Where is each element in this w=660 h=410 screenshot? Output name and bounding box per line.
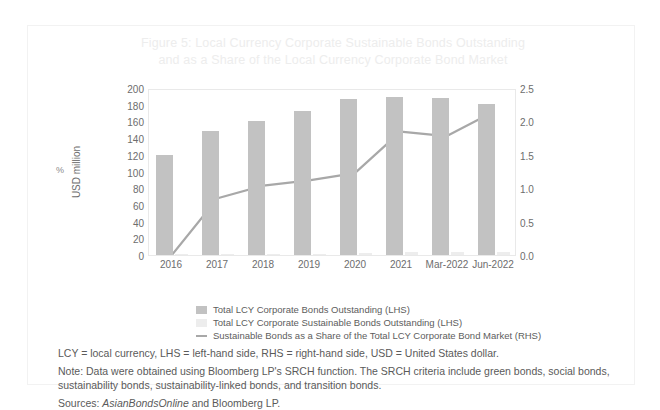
x-axis-tick-label: 2017 [206, 259, 228, 270]
bar-total-bonds [478, 104, 495, 255]
y-axis-right-unit: % [56, 165, 64, 175]
x-axis-tick-label: 2021 [390, 259, 412, 270]
y-axis-left-tick: 60 [133, 200, 144, 211]
bar-total-bonds [294, 111, 311, 255]
plot-region: USD million 200180160140120100806040200 … [28, 84, 636, 284]
legend-swatch-icon [196, 319, 207, 327]
y-axis-right-tick: 1.0 [520, 184, 534, 195]
y-axis-left-tick: 100 [127, 167, 144, 178]
x-axis-tick-label: Jun-2022 [472, 259, 514, 270]
y-axis-right-tick: 0.5 [520, 217, 534, 228]
legend-label: Total LCY Corporate Bonds Outstanding (L… [213, 304, 410, 315]
plot-area [148, 89, 516, 256]
sources-prefix: Sources: [58, 397, 102, 409]
y-axis-left-tick: 120 [127, 150, 144, 161]
y-axis-right-tick: 0.0 [520, 251, 534, 262]
y-axis-left-tick: 160 [127, 117, 144, 128]
x-axis-tick-label: 2018 [252, 259, 274, 270]
bar-total-bonds [248, 121, 265, 255]
bar-sustainable-bonds [451, 252, 464, 255]
x-axis-tick-label: 2016 [160, 259, 182, 270]
legend-item[interactable]: Total LCY Corporate Sustainable Bonds Ou… [196, 317, 596, 329]
y-axis-left-tick: 40 [133, 217, 144, 228]
bar-sustainable-bonds [405, 252, 418, 255]
y-axis-right-tick: 1.5 [520, 150, 534, 161]
sources-suffix: and Bloomberg LP. [189, 397, 280, 409]
sources-publication: AsianBondsOnline [102, 397, 188, 409]
note-abbreviations: LCY = local currency, LHS = left-hand si… [58, 346, 638, 361]
chart-title: Figure 5: Local Currency Corporate Susta… [88, 35, 578, 69]
legend-swatch-icon [196, 332, 207, 340]
legend-label: Total LCY Corporate Sustainable Bonds Ou… [213, 317, 462, 328]
y-axis-left-tick: 180 [127, 100, 144, 111]
bar-total-bonds [202, 131, 219, 255]
y-axis-left: 200180160140120100806040200 [104, 84, 144, 261]
bar-total-bonds [432, 98, 449, 255]
legend-item[interactable]: Total LCY Corporate Bonds Outstanding (L… [196, 304, 596, 316]
chart-title-line-2: and as a Share of the Local Currency Cor… [88, 52, 578, 69]
x-axis-labels: 201620172018201920202021Mar-2022Jun-2022 [148, 259, 516, 277]
bar-sustainable-bonds [497, 252, 510, 255]
y-axis-right-tick: 2.5 [520, 84, 534, 95]
note-sources: Sources: AsianBondsOnline and Bloomberg … [58, 396, 638, 410]
legend-item[interactable]: Sustainable Bonds as a Share of the Tota… [196, 330, 596, 342]
y-axis-left-title: USD million [71, 146, 82, 198]
chart-title-line-1: Figure 5: Local Currency Corporate Susta… [88, 35, 578, 52]
y-axis-left-tick: 20 [133, 234, 144, 245]
x-axis-tick-label: Mar-2022 [426, 259, 469, 270]
y-axis-right-tick: 2.0 [520, 117, 534, 128]
y-axis-left-tick: 80 [133, 184, 144, 195]
bar-sustainable-bonds [221, 254, 234, 256]
x-axis-tick-label: 2019 [298, 259, 320, 270]
bar-total-bonds [340, 99, 357, 255]
legend-label: Sustainable Bonds as a Share of the Tota… [213, 330, 541, 341]
bar-sustainable-bonds [313, 254, 326, 256]
bar-sustainable-bonds [267, 254, 280, 256]
legend-swatch-icon [196, 306, 207, 314]
x-axis-tick-label: 2020 [344, 259, 366, 270]
y-axis-left-tick: 140 [127, 134, 144, 145]
y-axis-left-tick: 200 [127, 84, 144, 95]
bar-sustainable-bonds [175, 254, 188, 256]
y-axis-left-tick: 0 [138, 251, 144, 262]
figure-notes: LCY = local currency, LHS = left-hand si… [58, 346, 638, 410]
bar-total-bonds [156, 155, 173, 255]
y-axis-right: 2.52.01.51.00.50.0 [520, 84, 564, 261]
bar-total-bonds [386, 97, 403, 255]
chart-legend: Total LCY Corporate Bonds Outstanding (L… [196, 304, 596, 343]
figure-container: Figure 5: Local Currency Corporate Susta… [27, 25, 635, 385]
note-methodology: Note: Data were obtained using Bloomberg… [58, 364, 638, 393]
bar-sustainable-bonds [359, 253, 372, 255]
